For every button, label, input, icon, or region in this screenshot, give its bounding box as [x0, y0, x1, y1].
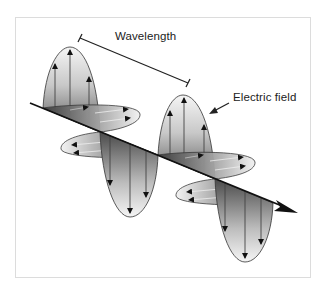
electric-field-pointer — [209, 103, 229, 114]
electric-field-label: Electric field — [233, 91, 296, 103]
axis-arrowhead-icon — [274, 200, 298, 213]
em-wave-diagram — [0, 0, 328, 294]
electric-lobe-down-1 — [100, 132, 158, 217]
wavelength-label: Wavelength — [115, 30, 176, 42]
pointer-arrowhead-icon — [209, 107, 218, 114]
electric-lobe-down-2 — [215, 179, 273, 262]
